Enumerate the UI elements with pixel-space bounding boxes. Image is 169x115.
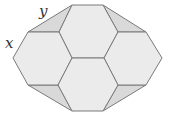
- label-x: x: [5, 34, 14, 52]
- label-y: y: [38, 2, 48, 20]
- hexagon-group: [13, 5, 162, 111]
- hexagon-tiling-diagram: y x: [0, 0, 169, 115]
